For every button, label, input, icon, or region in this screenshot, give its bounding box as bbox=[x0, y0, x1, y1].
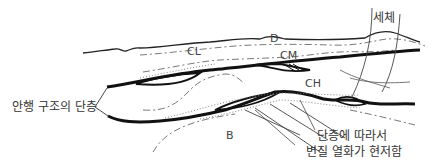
geological-cross-section: CL D CM CH B 세체 안행 구조의 단층 단층에 따라서 변질 열화가… bbox=[0, 0, 434, 165]
ch-boundary-line bbox=[143, 74, 245, 110]
weathered-boundary-left bbox=[352, 8, 372, 97]
label-d: D bbox=[270, 33, 278, 44]
cm-fault-lens bbox=[255, 64, 310, 71]
lower-dash-line bbox=[350, 110, 415, 125]
label-cm: CM bbox=[280, 50, 297, 61]
label-b: B bbox=[226, 130, 234, 141]
cm-boundary-line bbox=[143, 50, 395, 72]
label-note-line1: 단층에 따라서 bbox=[317, 130, 387, 142]
note-leader-1 bbox=[300, 100, 315, 130]
note-leader-2 bbox=[255, 110, 295, 145]
label-cl: CL bbox=[187, 46, 201, 57]
weathered-inner-lines bbox=[340, 70, 410, 88]
minor-fault-1 bbox=[245, 110, 300, 135]
label-ch: CH bbox=[305, 78, 321, 89]
upper-fault-line bbox=[107, 50, 420, 87]
label-note-line2: 변질 열화가 현저함 bbox=[306, 146, 402, 158]
label-fault-en-echelon: 안행 구조의 단층 bbox=[12, 101, 97, 113]
label-weathered: 세체 bbox=[373, 12, 395, 24]
